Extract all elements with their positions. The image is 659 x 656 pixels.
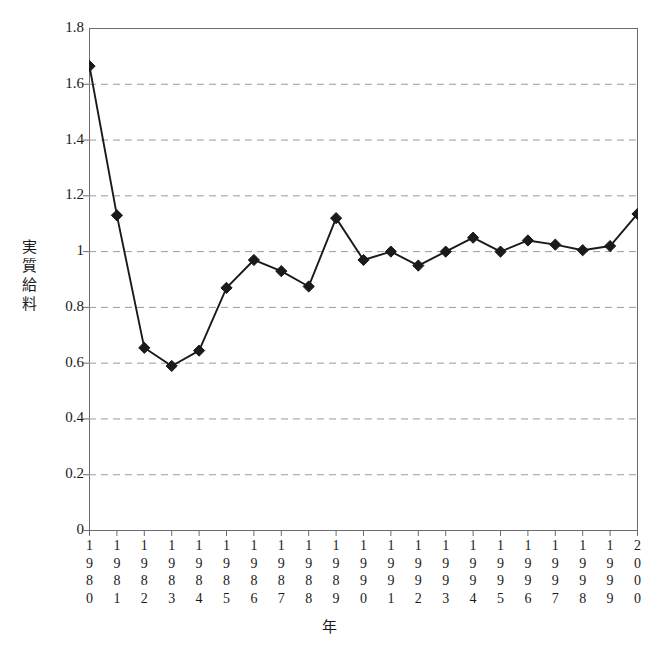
x-tick-label: 1997	[544, 537, 566, 607]
y-tick-label: 0	[44, 522, 84, 537]
x-tick-label-char: 9	[490, 555, 512, 573]
x-tick-label-char: 6	[517, 590, 539, 608]
data-point-marker	[276, 266, 287, 277]
x-tick-label-char: 8	[298, 590, 320, 608]
x-tick-label-char: 9	[544, 572, 566, 590]
x-tick-label-char: 9	[188, 555, 210, 573]
data-point-markers	[89, 61, 638, 372]
x-tick-label-char: 1	[79, 537, 101, 555]
x-tick-label: 1993	[435, 537, 457, 607]
x-tick-label-char: 5	[490, 590, 512, 608]
x-tick-label-char: 1	[298, 537, 320, 555]
x-tick-label-char: 9	[407, 555, 429, 573]
x-tick-label: 1980	[79, 537, 101, 607]
x-tick-label: 1984	[188, 537, 210, 607]
data-point-marker	[385, 246, 396, 257]
x-tick-label: 1985	[216, 537, 238, 607]
y-tick-label: 0.6	[44, 355, 84, 370]
chart-figure: 実質給料 00.20.40.60.811.21.41.61.8 19801981…	[0, 0, 659, 656]
y-tick-label: 1.2	[44, 187, 84, 202]
x-tick-label-char: 9	[353, 555, 375, 573]
y-axis-title-char: 給	[18, 276, 40, 295]
x-tick-label-char: 1	[599, 537, 621, 555]
x-tick-label-char: 9	[243, 555, 265, 573]
data-point-marker	[194, 345, 205, 356]
x-tick-label: 1992	[407, 537, 429, 607]
x-tick-label: 1991	[380, 537, 402, 607]
x-tick-label-char: 9	[298, 555, 320, 573]
x-tick-label-char: 9	[380, 555, 402, 573]
x-tick-label-char: 9	[572, 555, 594, 573]
data-point-marker	[89, 61, 95, 72]
x-tick-label-char: 1	[243, 537, 265, 555]
x-tick-label-char: 9	[161, 555, 183, 573]
x-tick-label-char: 1	[490, 537, 512, 555]
x-tick-label-char: 4	[462, 590, 484, 608]
x-tick-label: 1996	[517, 537, 539, 607]
x-tick-label-char: 1	[188, 537, 210, 555]
x-tick-label: 1983	[161, 537, 183, 607]
data-point-marker	[468, 232, 479, 243]
data-point-marker	[413, 260, 424, 271]
x-axis-title: 年	[0, 618, 659, 636]
x-tick-label-char: 8	[270, 572, 292, 590]
x-tick-label-char: 9	[544, 555, 566, 573]
x-tick-label-char: 9	[325, 590, 347, 608]
x-tick-label-char: 1	[462, 537, 484, 555]
x-tick-label-char: 9	[517, 572, 539, 590]
x-tick-label: 1998	[572, 537, 594, 607]
y-tick-label: 1.8	[44, 20, 84, 35]
data-point-marker	[331, 213, 342, 224]
scan-artifact-text	[6, 0, 651, 7]
y-tick-label: 1.4	[44, 132, 84, 147]
x-tick-label: 1982	[133, 537, 155, 607]
data-point-marker	[522, 235, 533, 246]
x-tick-label-char: 1	[216, 537, 238, 555]
x-tick-label-char: 1	[325, 537, 347, 555]
x-tick-label-char: 9	[599, 590, 621, 608]
x-tick-label-char: 1	[353, 537, 375, 555]
x-tick-label-char: 9	[79, 555, 101, 573]
x-tick-label-char: 1	[106, 590, 128, 608]
y-axis-title-char: 料	[18, 295, 40, 314]
data-point-marker	[495, 246, 506, 257]
data-point-marker	[111, 210, 122, 221]
x-tick-label-char: 0	[79, 590, 101, 608]
x-tick-label-char: 9	[325, 555, 347, 573]
x-tick-label-char: 9	[462, 555, 484, 573]
x-axis-tick-labels: 1980198119821983198419851986198719881989…	[0, 537, 659, 617]
x-tick-label: 1986	[243, 537, 265, 607]
y-tick-label: 1.6	[44, 76, 84, 91]
data-series-line	[90, 66, 638, 366]
x-tick-label-char: 9	[133, 555, 155, 573]
x-tick-label: 2000	[627, 537, 649, 607]
x-tick-label-char: 1	[380, 537, 402, 555]
x-tick-label: 1981	[106, 537, 128, 607]
x-tick-label-char: 9	[435, 555, 457, 573]
x-tick-label: 1999	[599, 537, 621, 607]
y-tick-label: 0.8	[44, 299, 84, 314]
x-tick-label-char: 0	[627, 555, 649, 573]
data-point-marker	[303, 281, 314, 292]
x-tick-label-char: 8	[188, 572, 210, 590]
data-point-marker	[550, 239, 561, 250]
x-tick-label-char: 8	[325, 572, 347, 590]
x-tick-label-char: 9	[270, 555, 292, 573]
gridlines-group	[89, 84, 638, 474]
x-tick-label: 1989	[325, 537, 347, 607]
y-axis-title: 実質給料	[18, 238, 40, 314]
x-tick-label-char: 8	[133, 572, 155, 590]
x-tick-label-char: 7	[270, 590, 292, 608]
x-tick-label-char: 1	[270, 537, 292, 555]
x-tick-label-char: 0	[627, 572, 649, 590]
x-tick-label-char: 9	[380, 572, 402, 590]
x-tick-label-char: 0	[353, 590, 375, 608]
x-tick-label-char: 1	[380, 590, 402, 608]
x-tick-label-char: 8	[161, 572, 183, 590]
x-tick-label: 1994	[462, 537, 484, 607]
y-tick-label: 0.2	[44, 466, 84, 481]
x-tick-label: 1988	[298, 537, 320, 607]
x-tick-label-char: 9	[407, 572, 429, 590]
x-tick-label-char: 2	[407, 590, 429, 608]
x-tick-label-char: 9	[572, 572, 594, 590]
